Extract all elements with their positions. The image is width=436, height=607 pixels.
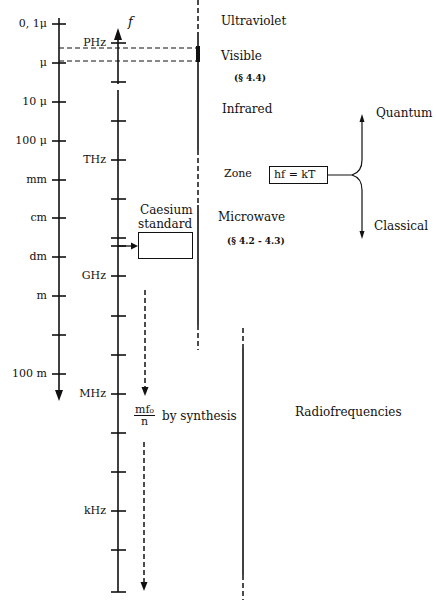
region-microwave: Microwave [218,211,285,223]
region-radiofrequencies: Radiofrequencies [295,406,402,418]
visible-band-lines [59,48,197,61]
fraction-denominator: n [134,416,155,427]
wavelength-label: 0, 1μ [0,18,47,30]
optical-boundary-line [196,0,200,350]
wavelength-label: m [0,290,47,302]
visible-section-ref: (§ 4.4) [234,72,266,84]
wavelength-axis [52,18,66,401]
frequency-label-thz: THz [60,154,106,166]
wavelength-label: cm [0,212,47,224]
frequency-axis [111,28,126,592]
frequency-label-ghz: GHz [60,270,106,282]
caesium-standard-box [118,233,193,259]
microwave-section-ref: (§ 4.2 - 4.3) [227,235,285,247]
wavelength-label: dm [0,251,47,263]
wavelength-label: mm [0,174,47,186]
classical-label: Classical [374,220,428,232]
quantum-label: Quantum [376,107,432,119]
frequency-symbol: f [128,16,133,28]
frequency-label-phz: PHz [60,37,106,49]
zone-label: Zone [224,168,252,180]
synthesis-arrows [144,290,145,583]
standard-label: standard [138,218,192,230]
region-ultraviolet: Ultraviolet [221,15,286,27]
caesium-label: Caesium [140,204,193,216]
wavelength-label: 100 μ [0,135,47,147]
synthesis-fraction: mf₀ n [134,404,155,427]
frequency-label-khz: kHz [60,505,106,517]
wavelength-label: 10 μ [0,96,47,108]
wavelength-label: μ [0,57,47,69]
zone-formula: hf = kT [274,169,315,181]
wavelength-label: 100 m [0,368,47,380]
frequency-label-mhz: MHz [60,388,106,400]
region-visible: Visible [221,50,262,62]
region-infrared: Infrared [222,103,272,115]
synthesis-label: by synthesis [162,410,237,422]
